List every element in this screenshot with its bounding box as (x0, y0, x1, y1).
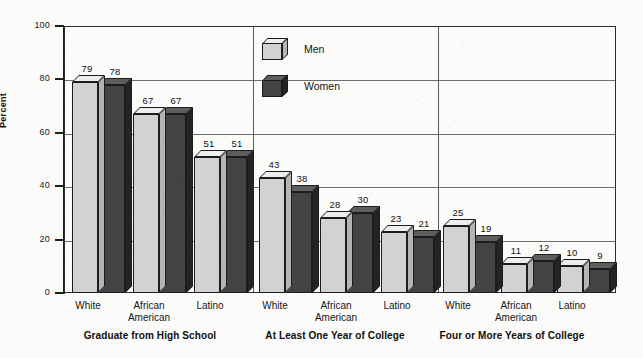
bar-side-face (373, 206, 380, 293)
bar-front-face (320, 218, 346, 293)
bar-front-face (72, 82, 98, 293)
bar-value-label: 10 (559, 247, 585, 258)
bar-side-face (98, 75, 105, 293)
group-label: Four or More Years of College (402, 330, 622, 341)
bar-value-label: 9 (587, 250, 613, 261)
y-axis-label-20: 20 (22, 234, 50, 244)
bar-value-label: 23 (383, 213, 409, 224)
bar-value-label: 78 (102, 66, 128, 77)
bar-value-label: 12 (531, 242, 557, 253)
y-axis-tick-100 (55, 25, 64, 27)
bar-front-face (381, 232, 407, 293)
bar-value-label: 67 (135, 95, 161, 106)
cube-dark-icon (262, 75, 288, 97)
bar-value-label: 79 (74, 63, 100, 74)
bar-front-face (133, 114, 159, 293)
bar-side-face (285, 171, 292, 293)
bar-side-face (434, 230, 441, 293)
bar-side-face (159, 107, 166, 293)
bar-side-face (220, 150, 227, 293)
cube-light-icon (262, 38, 288, 60)
bar-value-label: 28 (322, 199, 348, 210)
bar-value-label: 38 (289, 173, 315, 184)
y-axis-label-80: 80 (22, 73, 50, 83)
bar-men (72, 75, 105, 293)
y-axis-tick-80 (55, 78, 64, 80)
bar-men (443, 219, 476, 293)
bar-value-label: 43 (261, 159, 287, 170)
bar-men (320, 211, 353, 293)
y-axis-label-100: 100 (22, 20, 50, 30)
bar-front-face (443, 226, 469, 293)
bar-side-face (247, 150, 254, 293)
legend-item-men[interactable]: Men (262, 38, 382, 64)
bar-side-face (469, 219, 476, 293)
bar-side-face (407, 225, 414, 293)
bar-value-label: 51 (196, 138, 222, 149)
bar-value-label: 21 (411, 218, 437, 229)
bar-men (381, 225, 414, 293)
bar-men (557, 259, 590, 293)
bar-value-label: 25 (445, 207, 471, 218)
bar-side-face (346, 211, 353, 293)
bar-side-face (312, 185, 319, 293)
y-axis-tick-40 (55, 185, 64, 187)
y-axis-title: Percent (0, 93, 8, 128)
y-axis-tick-0 (55, 292, 64, 294)
bar-value-label: 67 (163, 95, 189, 106)
legend-item-women[interactable]: Women (262, 75, 382, 101)
y-axis-tick-60 (55, 132, 64, 134)
y-axis-label-0: 0 (22, 287, 50, 297)
chart-figure: Percent 91012111925212330283843515167677… (0, 0, 643, 358)
bar-men (194, 150, 227, 293)
bar-side-face (496, 235, 503, 293)
y-axis-label-60: 60 (22, 127, 50, 137)
y-axis-tick-20 (55, 239, 64, 241)
bar-side-face (125, 78, 132, 293)
bar-side-face (186, 107, 193, 293)
legend-label: Women (304, 80, 340, 92)
bar-front-face (259, 178, 285, 293)
legend-label: Men (304, 43, 324, 55)
bar-value-label: 19 (473, 223, 499, 234)
bar-front-face (501, 264, 527, 293)
bar-men (133, 107, 166, 293)
bar-men (259, 171, 292, 293)
bar-value-label: 51 (224, 138, 250, 149)
bar-value-label: 30 (350, 194, 376, 205)
bar-front-face (194, 157, 220, 293)
y-axis-label-40: 40 (22, 180, 50, 190)
bar-men (501, 257, 534, 293)
bar-value-label: 11 (503, 245, 529, 256)
category-label: Latino (532, 300, 612, 312)
